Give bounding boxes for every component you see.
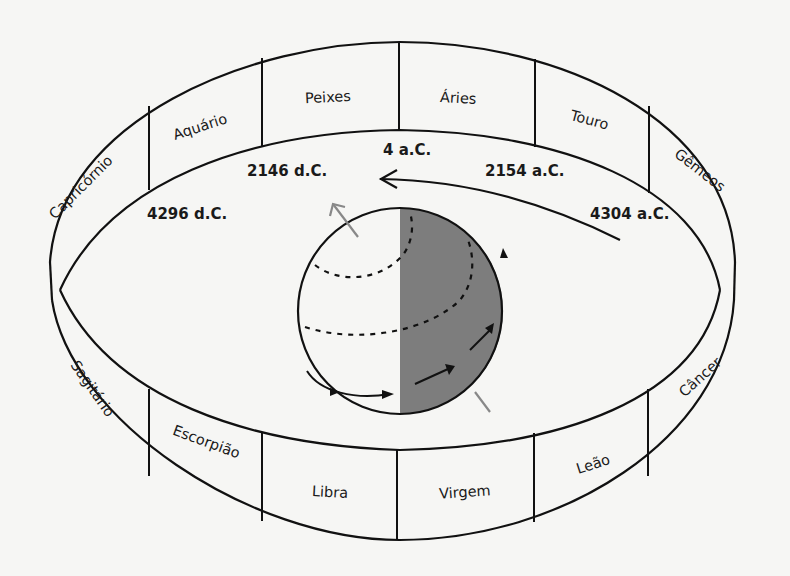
- sign-label-virgem: Virgem: [439, 482, 492, 502]
- band-left-side: [50, 262, 52, 300]
- sign-label-sagitario: Sagitário: [68, 358, 118, 420]
- sign-label-libra: Libra: [312, 483, 349, 501]
- dotted-arc: [315, 212, 412, 277]
- band-right-side: [734, 262, 735, 300]
- date-label-2154ac: 2154 a.C.: [485, 162, 565, 180]
- sign-label-leao: Leão: [574, 451, 612, 477]
- date-label-4304ac: 4304 a.C.: [590, 205, 670, 223]
- sign-label-aquario: Aquário: [171, 110, 229, 143]
- sign-label-peixes: Peixes: [305, 88, 352, 106]
- axis-arrow-line: [333, 204, 358, 237]
- date-label-4ac: 4 a.C.: [383, 141, 431, 159]
- zodiac-precession-diagram: Peixes Áries Touro Gêmeos Câncer Leão Vi…: [0, 0, 790, 576]
- date-label-2146dc: 2146 d.C.: [247, 162, 327, 180]
- band-lower-bottom-arc: [52, 300, 734, 540]
- sign-label-aries: Áries: [440, 89, 477, 107]
- date-label-4296dc: 4296 d.C.: [147, 205, 227, 223]
- arrow-head: [382, 390, 394, 399]
- zodiac-band: [50, 42, 735, 540]
- sign-label-escorpiao: Escorpião: [171, 422, 243, 461]
- arrow-head: [500, 248, 508, 258]
- sign-label-capricornio: Capricórnio: [46, 152, 116, 222]
- axis-lower-line: [475, 392, 490, 412]
- earth-globe: [298, 204, 508, 414]
- sign-label-touro: Touro: [568, 107, 611, 133]
- sign-label-gemeos: Gêmeos: [672, 145, 729, 194]
- band-upper-bottom-arc: [60, 290, 720, 450]
